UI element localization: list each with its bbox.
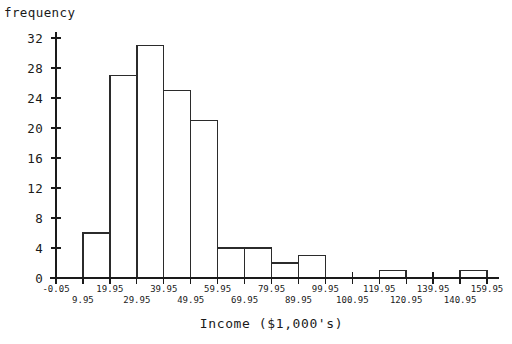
- x-tick-label: 119.95: [363, 284, 396, 294]
- x-tick-label: 29.95: [123, 295, 150, 305]
- histogram-bar: [110, 76, 137, 279]
- histogram-bars: [83, 46, 487, 279]
- histogram-bar: [83, 233, 110, 278]
- y-tick-label: 8: [35, 211, 43, 226]
- y-tick-label: 12: [27, 181, 43, 196]
- histogram-figure: frequency 048121620242832 -0.059.9519.95…: [0, 0, 512, 344]
- x-tick-label: 139.95: [417, 284, 450, 294]
- x-tick-label: 99.95: [312, 284, 339, 294]
- x-tick-label: 59.95: [204, 284, 231, 294]
- x-tick-label: 79.95: [258, 284, 285, 294]
- histogram-bar: [164, 91, 191, 279]
- x-tick-label: 9.95: [72, 295, 94, 305]
- x-tick-label: 69.95: [231, 295, 258, 305]
- y-tick-label: 24: [27, 91, 43, 106]
- histogram-bar: [191, 121, 218, 279]
- x-tick-label: 89.95: [285, 295, 312, 305]
- x-tick-label: 19.95: [96, 284, 123, 294]
- y-tick-label: 4: [35, 241, 43, 256]
- histogram-bar: [218, 248, 245, 278]
- histogram-bar: [298, 256, 325, 279]
- x-tick-label: 100.95: [336, 295, 369, 305]
- x-tick-label: -0.05: [42, 284, 69, 294]
- x-tick-label: 39.95: [150, 284, 177, 294]
- x-tick-label: 49.95: [177, 295, 204, 305]
- y-tick-label: 20: [27, 121, 43, 136]
- y-tick-label: 32: [27, 31, 43, 46]
- histogram-bar: [460, 271, 487, 279]
- x-axis-tick-labels: -0.059.9519.9529.9539.9549.9559.9569.957…: [42, 284, 503, 305]
- x-tick-label: 140.95: [444, 295, 477, 305]
- y-axis-tick-labels: 048121620242832: [27, 31, 43, 286]
- histogram-bar: [245, 248, 272, 278]
- y-tick-label: 28: [27, 61, 43, 76]
- y-tick-label: 16: [27, 151, 43, 166]
- histogram-bar: [379, 271, 406, 279]
- x-tick-label: 159.95: [471, 284, 504, 294]
- histogram-plot-area: 048121620242832 -0.059.9519.9529.9539.95…: [0, 0, 512, 344]
- histogram-bar: [272, 263, 299, 278]
- x-tick-label: 120.95: [390, 295, 423, 305]
- histogram-bar: [137, 46, 164, 279]
- x-axis-title: Income ($1,000's): [200, 316, 343, 331]
